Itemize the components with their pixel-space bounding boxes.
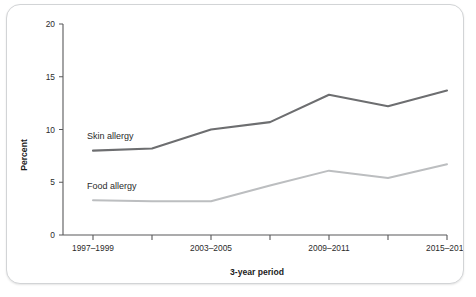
series-annotation-skin-allergy: Skin allergy: [87, 131, 134, 141]
x-tick-label: 2009–2011: [308, 243, 350, 253]
x-tick-label: 1997–1999: [72, 243, 114, 253]
y-axis-title: Percent: [19, 139, 29, 171]
x-tick-label: 2003–2005: [190, 243, 232, 253]
y-tick-label: 20: [46, 19, 56, 29]
y-axis: 05101520: [46, 19, 63, 240]
series-line-food-allergy: [93, 164, 447, 201]
chart-figure: 05101520 1997–19992003–20052009–20112015…: [6, 4, 464, 284]
annotation-layer: Skin allergyFood allergy: [87, 131, 137, 192]
series-line-skin-allergy: [93, 90, 447, 150]
x-axis-title: 3-year period: [230, 267, 284, 277]
series-annotation-food-allergy: Food allergy: [87, 181, 137, 191]
y-tick-label: 10: [46, 125, 56, 135]
y-tick-label: 5: [50, 177, 55, 187]
line-chart: 05101520 1997–19992003–20052009–20112015…: [7, 5, 464, 284]
x-axis: 1997–19992003–20052009–20112015–2017: [63, 235, 464, 253]
x-tick-label: 2015–2017: [426, 243, 464, 253]
series-layer: [93, 90, 447, 201]
y-tick-label: 0: [50, 230, 55, 240]
y-tick-label: 15: [46, 72, 56, 82]
